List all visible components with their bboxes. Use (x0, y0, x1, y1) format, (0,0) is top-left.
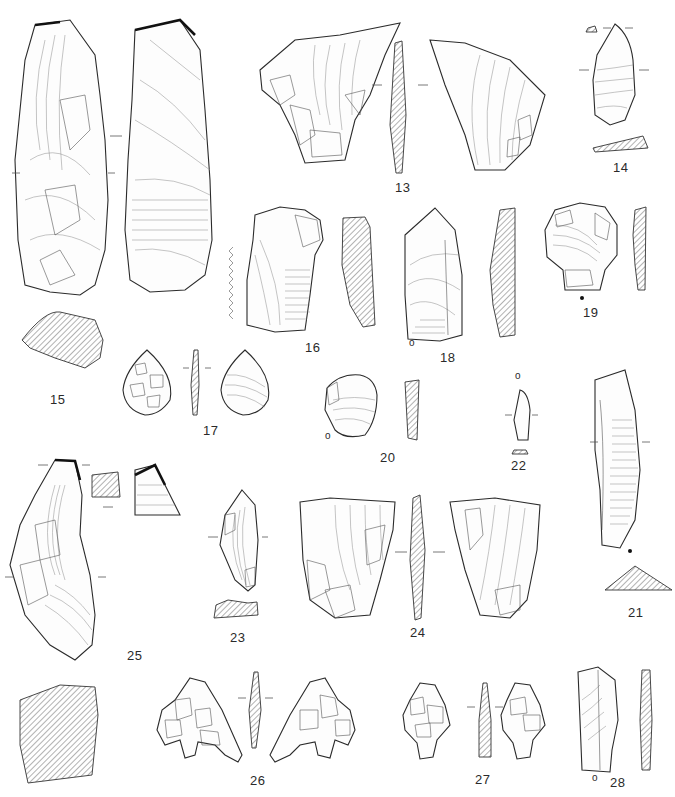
figure-28-mark: o (592, 772, 598, 783)
figure-20-mark: o (325, 430, 331, 441)
figure-18: o 18 (400, 195, 530, 365)
figure-number: 25 (127, 648, 142, 663)
figure-number: 20 (380, 450, 395, 465)
figure-28-drawing (570, 660, 675, 790)
figure-21-drawing (560, 370, 675, 640)
figure-number: 16 (305, 340, 320, 355)
figure-16-drawing (225, 195, 385, 355)
figure-number: 17 (203, 423, 218, 438)
figure-26: 26 (150, 670, 360, 790)
figure-22-drawing (500, 370, 550, 465)
figure-number: 23 (230, 630, 245, 645)
figure-number: 14 (613, 160, 628, 175)
figure-23-drawing (200, 485, 285, 645)
figure-number: 21 (628, 605, 643, 620)
artifact-plate: 15 13 14 (0, 0, 675, 797)
figure-number: 26 (250, 773, 265, 788)
figure-19: 19 (535, 195, 675, 320)
figure-number: 24 (410, 625, 425, 640)
figure-19-drawing (535, 195, 675, 320)
figure-22: o 22 (500, 370, 550, 465)
figure-number: 13 (395, 180, 410, 195)
figure-23: 23 (200, 485, 285, 645)
figure-28: o 28 (570, 660, 675, 790)
figure-14-drawing (575, 20, 675, 170)
figure-17: 17 (115, 345, 285, 445)
figure-21: 21 (560, 370, 675, 640)
figure-number: 27 (475, 772, 490, 787)
figure-22-mark: o (515, 370, 521, 381)
figure-24-drawing (295, 490, 540, 640)
figure-18-drawing (400, 195, 530, 365)
figure-18-mark: o (409, 337, 415, 348)
figure-13: 13 (250, 15, 540, 195)
figure-27: 27 (395, 675, 555, 790)
figure-16: 16 (225, 195, 385, 355)
figure-24: 24 (295, 490, 540, 640)
figure-number: 15 (50, 392, 65, 407)
figure-14: 14 (575, 20, 675, 170)
figure-20: o 20 (315, 370, 465, 465)
figure-number: 18 (440, 350, 455, 365)
figure-number: 28 (610, 775, 625, 790)
figure-13-drawing (250, 15, 540, 195)
figure-number: 19 (583, 305, 598, 320)
figure-number: 22 (511, 458, 526, 473)
figure-26-drawing (150, 670, 360, 790)
figure-17-drawing (115, 345, 285, 445)
